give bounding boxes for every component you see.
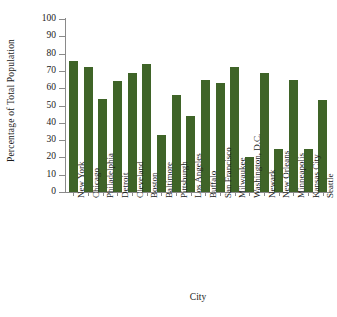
y-axis-tick-labels: 0102030405060708090100 — [26, 0, 56, 317]
y-axis-tick — [59, 88, 65, 89]
x-axis-tick — [249, 192, 250, 196]
x-axis-tick — [88, 192, 89, 196]
x-axis-tick — [176, 192, 177, 196]
x-axis-tick — [161, 192, 162, 196]
y-axis-tick-label: 100 — [28, 14, 56, 24]
y-axis-tick-label: 80 — [28, 49, 56, 59]
x-axis-tick — [205, 192, 206, 196]
x-axis-tick — [73, 192, 74, 196]
y-axis-tick-label: 70 — [28, 66, 56, 76]
y-axis-tick-label: 30 — [28, 135, 56, 145]
x-axis-tick-label: Buffalo — [209, 171, 218, 198]
x-axis-tick — [323, 192, 324, 196]
y-axis-tick-label: 0 — [28, 187, 56, 197]
y-axis-tick-label: 60 — [28, 83, 56, 93]
x-axis-tick — [308, 192, 309, 196]
x-axis-tick — [132, 192, 133, 196]
x-axis-tick — [147, 192, 148, 196]
y-axis-tick-label: 10 — [28, 170, 56, 180]
x-axis-tick-label: Kansas City — [312, 154, 321, 198]
x-axis-tick-label: Los Angeles — [194, 153, 203, 198]
x-axis-tick — [191, 192, 192, 196]
x-axis-tick-label: Detroit — [121, 173, 130, 199]
y-axis-tick-label: 20 — [28, 152, 56, 162]
y-axis-tick-label: 90 — [28, 31, 56, 41]
x-axis-tick-label: Milwaukee — [238, 158, 247, 199]
y-axis-tick-label: 50 — [28, 101, 56, 111]
x-axis-tick-label: Baltimore — [165, 162, 174, 198]
x-axis-tick-label: Pittsburgh — [180, 161, 189, 198]
y-axis-tick — [59, 192, 65, 193]
y-axis-tick — [59, 106, 65, 107]
y-axis-title: Percentage of Total Population — [6, 3, 20, 198]
x-axis-tick-label: Cleveland — [136, 162, 145, 199]
y-axis-tick — [59, 157, 65, 158]
y-axis-tick — [59, 175, 65, 176]
x-axis-tick-label: New Orleans — [282, 151, 291, 198]
y-axis-tick — [59, 36, 65, 37]
x-axis-tick-label: San Francisco — [224, 147, 233, 198]
x-axis-tick — [117, 192, 118, 196]
x-axis-tick — [220, 192, 221, 196]
y-axis-tick — [59, 140, 65, 141]
x-axis-tick-label: Newark — [268, 170, 277, 199]
x-axis-title: City — [66, 292, 330, 302]
x-axis-tick — [235, 192, 236, 196]
x-axis-tick-label: New York — [77, 161, 86, 198]
y-axis-tick — [59, 71, 65, 72]
x-axis-tick-label: Chicago — [92, 168, 101, 198]
x-axis-tick — [279, 192, 280, 196]
x-axis-tick-label: Minneapolis — [297, 153, 306, 198]
x-axis-tick — [264, 192, 265, 196]
x-axis-tick-label: Philadelphia — [106, 153, 115, 198]
y-axis-tick — [59, 19, 65, 20]
x-axis-tick — [103, 192, 104, 196]
bar-chart: Percentage of Total Population 010203040… — [0, 0, 337, 317]
x-axis-tick-label: Washington, D.C. — [253, 134, 262, 198]
y-axis-tick-label: 40 — [28, 118, 56, 128]
x-axis-tick-label: Seattle — [326, 174, 335, 199]
y-axis-tick — [59, 123, 65, 124]
x-axis-tick-label: Boston — [150, 172, 159, 198]
y-axis-tick — [59, 54, 65, 55]
x-axis-tick — [293, 192, 294, 196]
